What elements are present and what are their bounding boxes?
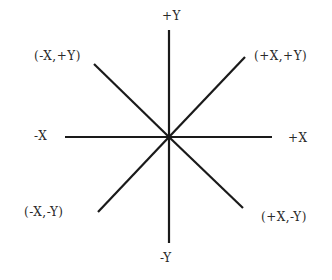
label-quadrant-neg-x-neg-y: (-X,-Y)	[24, 205, 64, 219]
diagonal-lower-left-line	[98, 137, 169, 212]
direction-diagram	[0, 0, 332, 280]
label-neg-x: -X	[34, 129, 47, 143]
label-quadrant-pos-x-neg-y: (+X,-Y)	[261, 210, 307, 224]
label-quadrant-neg-x-pos-y: (-X,+Y)	[34, 49, 81, 63]
diagonal-lower-right-line	[169, 137, 243, 208]
origin-point	[167, 135, 172, 140]
label-quadrant-pos-x-pos-y: (+X,+Y)	[254, 49, 307, 63]
label-pos-y: +Y	[162, 9, 181, 23]
label-pos-x: +X	[288, 131, 308, 145]
label-neg-y: -Y	[160, 251, 172, 265]
diagonal-upper-left-line	[94, 64, 169, 137]
diagonal-upper-right-line	[169, 57, 245, 137]
